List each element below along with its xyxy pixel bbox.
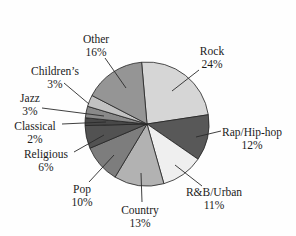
slice-percent-religious: 6%: [38, 161, 54, 173]
leader-line-children-s: [64, 83, 89, 104]
slice-label-r-b-urban: R&B/Urban: [186, 186, 242, 198]
slice-percent-pop: 10%: [71, 196, 93, 208]
music-genres-pie-chart: Rock24%Rap/Hip-hop12%R&B/Urban11%Country…: [0, 0, 296, 236]
slice-label-other: Other: [83, 33, 109, 45]
slice-percent-children-s: 3%: [47, 78, 63, 90]
slice-label-country: Country: [121, 204, 159, 217]
slice-percent-rap-hip-hop: 12%: [241, 139, 263, 151]
slice-percent-other: 16%: [85, 46, 107, 58]
slice-label-classical: Classical: [14, 120, 56, 132]
slice-percent-jazz: 3%: [22, 105, 38, 117]
slice-label-children-s: Children’s: [31, 65, 79, 77]
pie-chart-figure: Rock24%Rap/Hip-hop12%R&B/Urban11%Country…: [0, 0, 296, 236]
slice-label-jazz: Jazz: [20, 92, 40, 104]
slice-percent-classical: 2%: [27, 133, 43, 145]
slice-label-pop: Pop: [73, 183, 91, 196]
slice-label-religious: Religious: [24, 148, 69, 161]
pie-slice-rock: [142, 62, 209, 124]
slice-label-rap-hip-hop: Rap/Hip-hop: [222, 126, 282, 139]
slice-percent-country: 13%: [129, 217, 151, 229]
slice-label-rock: Rock: [200, 45, 225, 57]
slice-percent-r-b-urban: 11%: [204, 199, 225, 211]
slice-percent-rock: 24%: [201, 58, 223, 70]
